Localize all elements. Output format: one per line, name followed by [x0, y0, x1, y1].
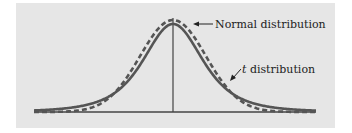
normal-arrowhead-icon [193, 22, 199, 27]
t-distribution-label: t distribution [242, 64, 315, 75]
normal-distribution-label: Normal distribution [215, 19, 326, 30]
normal-label-text: Normal distribution [215, 18, 326, 31]
t-label-suffix: distribution [246, 63, 315, 76]
